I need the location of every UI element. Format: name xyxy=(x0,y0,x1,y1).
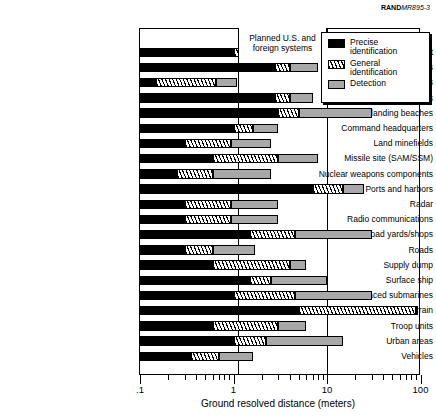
bar-segment-precise xyxy=(140,260,213,270)
bar-row: Surfaced submarines xyxy=(0,288,436,302)
bar-segment-detection xyxy=(231,139,270,149)
bar-segment-precise xyxy=(140,245,185,255)
bar-segment-precise xyxy=(140,169,177,179)
x-axis-tick-label: .1 xyxy=(136,384,144,395)
bar-row: Surface ship xyxy=(0,273,436,287)
bar-segment-precise xyxy=(140,124,234,134)
bar-segment-general xyxy=(213,260,290,270)
bar-segment-general xyxy=(185,245,213,255)
bar-segment-detection xyxy=(295,230,372,240)
x-axis-minor-tick xyxy=(219,375,220,380)
bar-segment-detection xyxy=(290,93,313,103)
legend-label-general: General identification xyxy=(350,59,425,78)
x-axis-minor-tick xyxy=(213,375,214,380)
bar-row: Missile site (SAM/SSM) xyxy=(0,151,436,165)
bar-segment-detection xyxy=(343,184,364,194)
bar-segment-detection xyxy=(278,154,318,164)
category-label: Radar xyxy=(302,197,436,211)
planned-systems-annotation: Planned U.S. and foreign systems xyxy=(238,28,327,60)
x-axis-minor-tick xyxy=(224,375,225,380)
bar-segment-general xyxy=(156,78,216,88)
bar-segment-general xyxy=(213,321,278,331)
x-axis-minor-tick xyxy=(290,375,291,380)
bar-segment-precise xyxy=(140,276,250,286)
category-label: Vehicles xyxy=(302,349,436,363)
bar-segment-general xyxy=(234,336,266,346)
bar-segment-precise xyxy=(140,321,213,331)
category-label: Radio communications xyxy=(302,212,436,226)
bar-row: Troop units xyxy=(0,319,436,333)
bar-segment-precise xyxy=(140,291,234,301)
bar-row: Nuclear weapons components xyxy=(0,167,436,181)
figure-chart: RANDMR895-3 Planned U.S. and foreign sys… xyxy=(0,0,436,417)
x-axis-minor-tick xyxy=(299,375,300,380)
x-axis-minor-tick xyxy=(406,375,407,380)
bar-segment-precise xyxy=(140,48,234,58)
x-axis-major-tick xyxy=(234,375,235,384)
bar-segment-precise xyxy=(140,78,156,88)
x-axis-minor-tick xyxy=(229,375,230,380)
bar-segment-detection xyxy=(290,63,318,73)
bar-row: Roads xyxy=(0,243,436,257)
x-axis-tick-label: 10 xyxy=(322,384,333,395)
bar-segment-detection xyxy=(219,352,253,362)
x-axis-minor-tick xyxy=(168,375,169,380)
bar-segment-detection xyxy=(253,124,279,134)
bar-row: Land minefields xyxy=(0,136,436,150)
legend-label-detection: Detection xyxy=(350,79,386,88)
bar-segment-general xyxy=(234,291,295,301)
solid-black-swatch-icon xyxy=(328,39,345,48)
x-axis-major-tick xyxy=(140,375,141,384)
category-label: Nuclear weapons components xyxy=(302,167,436,181)
bar-row: Vehicles xyxy=(0,349,436,363)
bar-segment-general xyxy=(185,200,232,210)
bar-row: Command headquarters xyxy=(0,121,436,135)
bar-segment-detection xyxy=(266,336,344,346)
category-label: Roads xyxy=(302,243,436,257)
bar-segment-detection xyxy=(213,245,255,255)
bar-segment-general xyxy=(213,154,278,164)
bar-segment-general xyxy=(250,276,271,286)
bar-segment-general xyxy=(185,215,232,225)
bar-segment-precise xyxy=(140,230,250,240)
bar-segment-general xyxy=(299,306,416,316)
diagonal-hatch-swatch-icon xyxy=(328,60,345,69)
x-axis-minor-tick xyxy=(313,375,314,380)
category-label: Land minefields xyxy=(302,136,436,150)
category-label: Troop units xyxy=(302,319,436,333)
bar-segment-precise xyxy=(140,139,185,149)
category-label: Command headquarters xyxy=(302,121,436,135)
x-axis-minor-tick xyxy=(262,375,263,380)
x-axis-minor-tick xyxy=(355,375,356,380)
bar-segment-general xyxy=(275,63,289,73)
x-axis-title: Ground resolved distance (meters) xyxy=(0,398,436,409)
solid-gray-swatch-icon xyxy=(328,80,345,89)
bar-segment-precise xyxy=(140,215,185,225)
category-label: Missile site (SAM/SSM) xyxy=(302,151,436,165)
bar-segment-precise xyxy=(140,184,313,194)
bar-segment-detection xyxy=(231,200,278,210)
x-axis-tick-label: 1 xyxy=(231,384,236,395)
x-axis-minor-tick xyxy=(205,375,206,380)
x-axis-major-tick xyxy=(421,375,422,384)
bar-segment-detection xyxy=(299,108,372,118)
x-axis-minor-tick xyxy=(323,375,324,380)
bar-segment-precise xyxy=(140,352,191,362)
bar-segment-general xyxy=(313,184,344,194)
bar-segment-general xyxy=(278,108,299,118)
x-axis-major-tick xyxy=(327,375,328,384)
bar-segment-detection xyxy=(278,321,306,331)
bar-row: Coast and landing beaches xyxy=(0,106,436,120)
x-axis-minor-tick xyxy=(306,375,307,380)
bar-segment-general xyxy=(234,124,253,134)
x-axis xyxy=(139,375,420,384)
x-axis-minor-tick xyxy=(400,375,401,380)
bar-segment-general xyxy=(250,230,295,240)
category-label: Supply dump xyxy=(302,258,436,272)
bar-segment-precise xyxy=(140,63,275,73)
bar-segment-precise xyxy=(140,306,299,316)
bar-row: Radar xyxy=(0,197,436,211)
x-axis-minor-tick xyxy=(392,375,393,380)
bar-segment-detection xyxy=(295,291,372,301)
x-axis-minor-tick xyxy=(318,375,319,380)
